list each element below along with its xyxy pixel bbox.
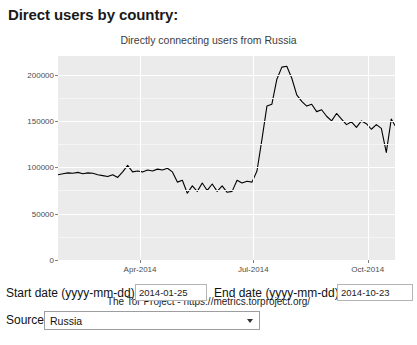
y-tick-label: 0 bbox=[2, 256, 54, 265]
x-tick-mark bbox=[368, 260, 369, 263]
end-date-input[interactable] bbox=[337, 284, 413, 301]
x-axis: Apr-2014Jul-2014Oct-2014 bbox=[58, 260, 395, 282]
x-tick-label: Apr-2014 bbox=[124, 265, 157, 274]
gridline-vertical bbox=[253, 56, 254, 260]
x-tick-label: Jul-2014 bbox=[238, 265, 269, 274]
y-tick-label: 100000 bbox=[2, 163, 54, 172]
start-date-label: Start date (yyyy-mm-dd): bbox=[6, 286, 138, 300]
chart-container: Directly connecting users from Russia 05… bbox=[0, 30, 417, 282]
y-axis: 050000100000150000200000 bbox=[0, 56, 54, 260]
x-tick-mark bbox=[253, 260, 254, 263]
gridline-vertical bbox=[368, 56, 369, 260]
y-tick-label: 200000 bbox=[2, 70, 54, 79]
gridline-horizontal bbox=[58, 75, 395, 76]
page-title: Direct users by country: bbox=[8, 6, 178, 23]
source-select-value: Russia bbox=[50, 315, 82, 327]
x-tick-label: Oct-2014 bbox=[351, 265, 384, 274]
gridline-horizontal bbox=[58, 167, 395, 168]
source-row: Source: Russia bbox=[0, 311, 417, 331]
source-label: Source: bbox=[6, 313, 47, 327]
gridline-horizontal-minor bbox=[58, 190, 395, 191]
chart-title: Directly connecting users from Russia bbox=[0, 34, 417, 46]
y-tick-label: 150000 bbox=[2, 116, 54, 125]
gridline-horizontal-minor bbox=[58, 98, 395, 99]
data-series-line bbox=[58, 56, 395, 260]
gridline-horizontal bbox=[58, 214, 395, 215]
gridline-horizontal-minor bbox=[58, 144, 395, 145]
gridline-horizontal-minor bbox=[58, 237, 395, 238]
gridline-vertical bbox=[140, 56, 141, 260]
gridline-horizontal bbox=[58, 121, 395, 122]
x-tick-mark bbox=[140, 260, 141, 263]
plot-area: 050000100000150000200000 Apr-2014Jul-201… bbox=[0, 52, 417, 282]
start-date-input[interactable] bbox=[135, 284, 207, 301]
chevron-down-icon bbox=[247, 319, 253, 323]
controls-form: Start date (yyyy-mm-dd): End date (yyyy-… bbox=[0, 284, 417, 345]
end-date-label: End date (yyyy-mm-dd): bbox=[214, 286, 342, 300]
date-range-row: Start date (yyyy-mm-dd): End date (yyyy-… bbox=[0, 284, 417, 304]
y-tick-label: 50000 bbox=[2, 209, 54, 218]
plot-panel bbox=[58, 56, 395, 260]
source-select[interactable]: Russia bbox=[44, 311, 260, 330]
